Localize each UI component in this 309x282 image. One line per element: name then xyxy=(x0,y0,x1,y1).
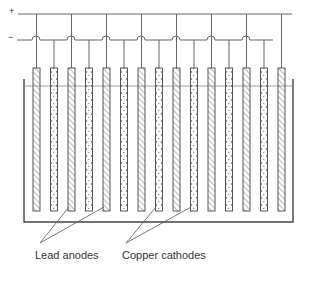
lead-anode-plate xyxy=(103,68,110,211)
copper-cathode-plate xyxy=(51,68,58,211)
copper-cathode-plate xyxy=(156,68,163,211)
lead-anode-plate xyxy=(138,68,145,211)
lead-anode-plate xyxy=(68,68,75,211)
label-pointers xyxy=(40,207,191,243)
copper-cathode-plate xyxy=(191,68,198,211)
lead-anode-plate xyxy=(208,68,215,211)
lead-anode-plate xyxy=(173,68,180,211)
lead-anode-plate xyxy=(278,68,285,211)
copper-cathode-plate xyxy=(121,68,128,211)
lead-anode-plate xyxy=(243,68,250,211)
copper-cathode-plate xyxy=(226,68,233,211)
copper-cathode-plate xyxy=(86,68,93,211)
copper-cathode-plate xyxy=(261,68,268,211)
copper-cathodes-label: Copper cathodes xyxy=(122,249,206,261)
lead-anodes-label: Lead anodes xyxy=(35,249,99,261)
lead-anode-plate xyxy=(33,68,40,211)
negative-busbar xyxy=(17,36,273,40)
electrolytic-cell-diagram xyxy=(0,0,309,282)
electrode-array xyxy=(33,14,285,211)
